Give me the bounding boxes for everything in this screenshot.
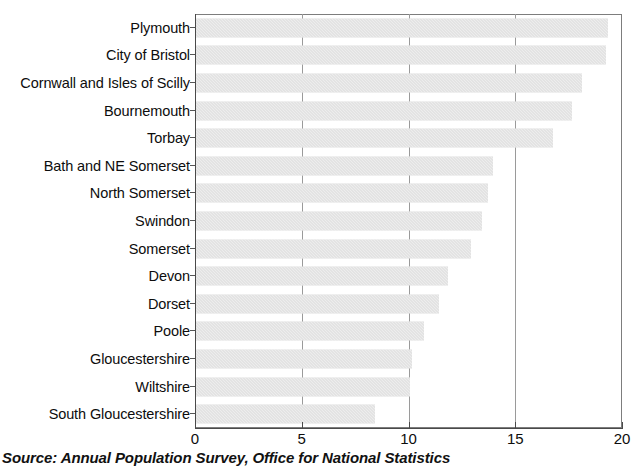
bar-track (196, 46, 606, 65)
x-tick-label: 0 (191, 431, 199, 446)
bar-track (196, 239, 471, 258)
x-tick-mark (515, 422, 516, 429)
x-tick-mark (195, 422, 196, 429)
bar[interactable] (196, 18, 608, 37)
bar[interactable] (196, 294, 439, 313)
x-tick-mark (409, 422, 410, 429)
category-label: North Somerset (90, 186, 190, 201)
bar-track (196, 405, 375, 424)
bar-track (196, 156, 493, 175)
bar[interactable] (196, 377, 410, 396)
bar[interactable] (196, 211, 482, 230)
x-tick-mark (302, 422, 303, 429)
bar-track (196, 377, 410, 396)
bar[interactable] (196, 46, 606, 65)
bar[interactable] (196, 73, 582, 92)
x-tick-label: 15 (507, 431, 524, 446)
bar[interactable] (196, 405, 375, 424)
category-label: Plymouth (130, 21, 190, 36)
bar-row[interactable]: Wiltshire (0, 373, 633, 401)
bar-row[interactable]: Somerset (0, 235, 633, 263)
bar[interactable] (196, 239, 471, 258)
x-tick-label: 10 (400, 431, 417, 446)
category-label: Cornwall and Isles of Scilly (20, 76, 190, 91)
bar-row[interactable]: North Somerset (0, 180, 633, 208)
bar-row[interactable]: South Gloucestershire (0, 400, 633, 428)
bar-track (196, 101, 572, 120)
category-label: City of Bristol (106, 48, 190, 63)
bar-track (196, 73, 582, 92)
y-axis-tick (190, 330, 195, 331)
source-note: Source: Annual Population Survey, Office… (2, 450, 450, 466)
bar-row[interactable]: Plymouth (0, 14, 633, 42)
y-axis-tick (190, 386, 195, 387)
category-label: Devon (149, 269, 190, 284)
bar[interactable] (196, 322, 424, 341)
y-axis-tick (190, 248, 195, 249)
y-axis-tick (190, 54, 195, 55)
category-label: Bournemouth (104, 103, 190, 118)
y-axis-tick (190, 413, 195, 414)
bar-row[interactable]: Dorset (0, 290, 633, 318)
x-tick-label: 5 (298, 431, 306, 446)
bar-chart: PlymouthCity of BristolCornwall and Isle… (0, 0, 633, 440)
category-label: Dorset (148, 296, 190, 311)
bar-row[interactable]: Bath and NE Somerset (0, 152, 633, 180)
category-label: Wiltshire (135, 379, 190, 394)
x-tick-label: 20 (614, 431, 631, 446)
bar-rows: PlymouthCity of BristolCornwall and Isle… (0, 14, 633, 428)
y-axis-tick (190, 358, 195, 359)
y-axis-tick (190, 303, 195, 304)
category-label: Poole (153, 324, 190, 339)
bar[interactable] (196, 184, 488, 203)
bar-row[interactable]: Swindon (0, 207, 633, 235)
x-tick-mark (622, 422, 623, 429)
bar-row[interactable]: Devon (0, 262, 633, 290)
bar-track (196, 349, 412, 368)
category-label: Torbay (147, 131, 190, 146)
bar[interactable] (196, 156, 493, 175)
bar-row[interactable]: Gloucestershire (0, 345, 633, 373)
y-axis-tick (190, 27, 195, 28)
bar-track (196, 18, 608, 37)
bar-track (196, 322, 424, 341)
bar[interactable] (196, 349, 412, 368)
bar-row[interactable]: Poole (0, 318, 633, 346)
bar-track (196, 211, 482, 230)
bar-row[interactable]: City of Bristol (0, 42, 633, 70)
bar[interactable] (196, 129, 553, 148)
bar-row[interactable]: Bournemouth (0, 97, 633, 125)
y-axis-tick (190, 275, 195, 276)
category-label: South Gloucestershire (49, 407, 190, 422)
category-label: Somerset (129, 241, 190, 256)
category-label: Gloucestershire (90, 352, 190, 367)
bar-row[interactable]: Cornwall and Isles of Scilly (0, 69, 633, 97)
bar[interactable] (196, 101, 572, 120)
bar-track (196, 129, 553, 148)
y-axis-tick (190, 220, 195, 221)
y-axis-tick (190, 137, 195, 138)
bar-row[interactable]: Torbay (0, 124, 633, 152)
bar-track (196, 294, 439, 313)
category-label: Swindon (135, 214, 190, 229)
y-axis-tick (190, 110, 195, 111)
bar-track (196, 184, 488, 203)
y-axis-tick (190, 192, 195, 193)
bar[interactable] (196, 267, 448, 286)
category-label: Bath and NE Somerset (44, 159, 190, 174)
y-axis-tick (190, 165, 195, 166)
bar-track (196, 267, 448, 286)
y-axis-tick (190, 82, 195, 83)
